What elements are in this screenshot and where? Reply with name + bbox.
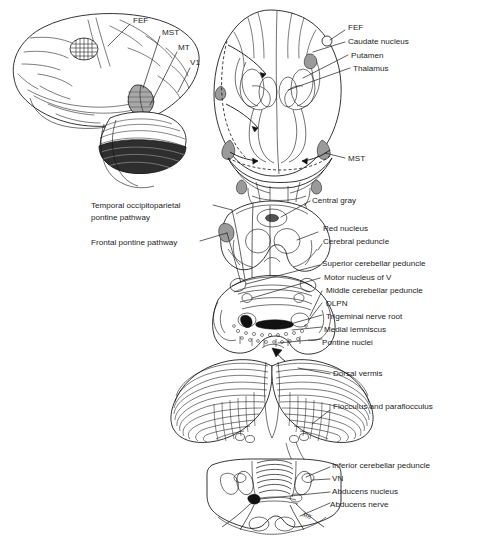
label-vn: VN xyxy=(332,474,343,483)
label-fef-lateral: FEF xyxy=(133,16,148,25)
label-central-gray: Central gray xyxy=(312,196,357,205)
label-v1-lateral: V1 xyxy=(190,58,200,67)
label-superior-cerebellar-peduncle: Superior cerebellar peduncle xyxy=(322,259,426,268)
label-thalamus: Thalamus xyxy=(353,64,389,73)
label-abducens-nucleus: Abducens nucleus xyxy=(332,487,398,496)
label-trigeminal-nerve-root: Trigeminal nerve root xyxy=(326,312,403,321)
label-flocculus-paraflocculus: Flocculus and paraflocculus xyxy=(333,402,433,411)
cerebral-aqueduct xyxy=(266,214,279,221)
label-cerebral-peduncle: Cerebral peduncle xyxy=(323,237,390,246)
figure-canvas: FEF MST MT V1 xyxy=(0,0,484,547)
midbrain-shade-left xyxy=(219,223,234,242)
label-caudate-nucleus: Caudate nucleus xyxy=(348,37,409,46)
label-mt-lateral: MT xyxy=(178,43,190,52)
label-motor-nucleus-v: Motor nucleus of V xyxy=(324,273,392,282)
label-dlpn: DLPN xyxy=(326,299,348,308)
label-abducens-nerve: Abducens nerve xyxy=(330,500,389,509)
label-mst-lateral: MST xyxy=(162,28,179,37)
anatomical-figure: FEF MST MT V1 xyxy=(0,0,484,547)
label-inferior-cerebellar-peduncle: Inferior cerebellar peduncle xyxy=(332,461,431,470)
label-red-nucleus: Red nucleus xyxy=(323,224,368,233)
label-putamen: Putamen xyxy=(351,51,383,60)
label-dorsal-vermis: Dorsal vermis xyxy=(333,369,382,378)
label-fef-coronal: FEF xyxy=(348,23,363,32)
caption-cutoff-row xyxy=(0,541,484,547)
fef-patch-lateral xyxy=(70,38,98,60)
cerebellum-lateral xyxy=(99,112,186,174)
label-frontal-pontine-pathway: Frontal pontine pathway xyxy=(91,238,178,247)
label-pontine-nuclei: Pontine nuclei xyxy=(322,338,373,347)
fef-marker-coronal xyxy=(322,36,332,46)
label-temporal-pathway-line1: Temporal occipitoparietal xyxy=(91,201,181,210)
label-mst-coronal: MST xyxy=(348,154,365,163)
putamen-shade-coronal xyxy=(304,54,317,69)
label-temporal-pathway-line2: pontine pathway xyxy=(91,213,151,222)
label-medial-lemniscus: Medial lemniscus xyxy=(324,325,386,334)
label-middle-cerebellar-peduncle: Middle cerebellar peduncle xyxy=(326,286,423,295)
